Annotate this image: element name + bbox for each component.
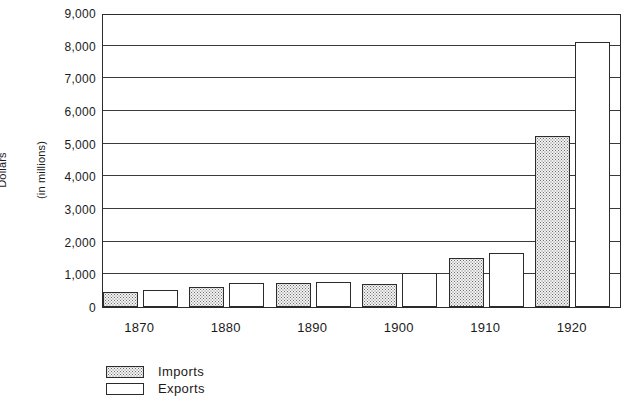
bar-imports-1920: [535, 136, 570, 308]
legend-swatch-exports-icon: [106, 383, 144, 395]
x-axis-tick-1920: 1920: [532, 320, 612, 335]
legend-label-exports: Exports: [158, 381, 205, 396]
gridline-6000: [103, 110, 620, 111]
x-axis-tick-1910: 1910: [445, 320, 525, 335]
bar-exports-1920: [575, 42, 610, 307]
y-axis-tick-0: 0: [6, 302, 96, 314]
bar-imports-1870: [103, 292, 138, 307]
y-axis-tick-7000: 7,000: [6, 73, 96, 85]
x-axis-tick-labels: 187018801890190019101920: [102, 320, 621, 342]
bar-imports-1890: [276, 283, 311, 307]
x-axis-tick-1870: 1870: [99, 320, 179, 335]
x-axis-tick-1890: 1890: [272, 320, 352, 335]
y-axis-tick-2000: 2,000: [6, 237, 96, 249]
gridline-8000: [103, 45, 620, 46]
y-axis-tick-5000: 5,000: [6, 139, 96, 151]
legend: Imports Exports: [106, 363, 205, 397]
bar-chart: Dollars (in millions) 01,0002,0003,0004,…: [0, 0, 630, 407]
legend-item-exports: Exports: [106, 380, 205, 397]
legend-item-imports: Imports: [106, 363, 205, 380]
gridline-7000: [103, 77, 620, 78]
bar-exports-1880: [229, 283, 264, 308]
y-axis-tick-labels: 01,0002,0003,0004,0005,0006,0007,0008,00…: [0, 0, 96, 320]
bar-exports-1890: [316, 282, 351, 307]
y-axis-tick-1000: 1,000: [6, 269, 96, 281]
bar-exports-1900: [402, 273, 437, 307]
bar-imports-1880: [189, 287, 224, 307]
x-axis-tick-1900: 1900: [359, 320, 439, 335]
plot-area: [102, 14, 621, 308]
y-axis-tick-6000: 6,000: [6, 106, 96, 118]
y-axis-tick-9000: 9,000: [6, 8, 96, 20]
y-axis-tick-4000: 4,000: [6, 171, 96, 183]
legend-label-imports: Imports: [158, 364, 204, 379]
bar-exports-1910: [489, 253, 524, 307]
x-axis-tick-1880: 1880: [186, 320, 266, 335]
bar-imports-1910: [449, 258, 484, 307]
y-axis-tick-3000: 3,000: [6, 204, 96, 216]
y-axis-tick-8000: 8,000: [6, 41, 96, 53]
legend-swatch-imports-icon: [106, 366, 144, 378]
bar-exports-1870: [143, 290, 178, 307]
bar-imports-1900: [362, 284, 397, 307]
